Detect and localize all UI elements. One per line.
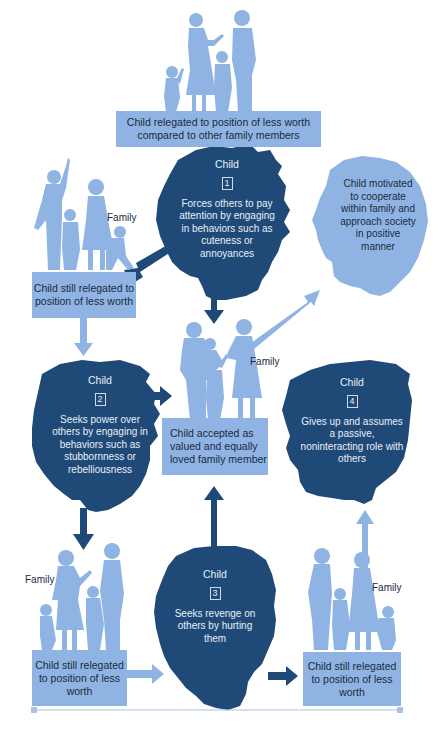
stage3-number-badge: 3 — [210, 587, 221, 600]
left-top-family-label: Family — [107, 212, 136, 223]
center-box: Child accepted as valued and equally lov… — [162, 418, 268, 475]
left-top-box: Child still relegated to position of les… — [32, 272, 136, 318]
arrow-stage2-to-left-bottom — [73, 508, 94, 550]
stage2-content: Child 2 Seeks power over others by engag… — [46, 374, 154, 476]
arrow-center-to-positive — [244, 290, 320, 354]
arrow-stage3-to-right-bottom — [268, 666, 298, 686]
top-family-silhouette — [164, 10, 256, 112]
stage3-content: Child 3 Seeks revenge on others by hurti… — [170, 568, 260, 645]
right-bottom-box: Child still relegated to position of les… — [303, 652, 401, 706]
top-box-text: Child relegated to position of less wort… — [116, 116, 321, 142]
center-family-label: Family — [250, 356, 279, 367]
center-family-silhouette — [180, 319, 262, 420]
stage4-title: Child — [300, 376, 404, 389]
arrow-left-family-to-stage2 — [74, 318, 93, 356]
stage4-content: Child 4 Gives up and assumes a passive, … — [300, 376, 404, 466]
stage2-number-badge: 2 — [95, 393, 106, 406]
stage1-title: Child — [178, 158, 276, 171]
left-bottom-family-silhouette — [40, 543, 124, 650]
stage1-text: Forces others to pay attention by engagi… — [178, 198, 276, 261]
top-box: Child relegated to position of less wort… — [116, 111, 321, 147]
stage4-text: Gives up and assumes a passive, noninter… — [300, 416, 404, 466]
arrow-stage1-to-center — [204, 296, 224, 324]
stage2-title: Child — [46, 374, 154, 387]
positive-head-text: Child motivated to cooperate within fami… — [340, 178, 416, 252]
left-bottom-box: Child still relegated to position of les… — [32, 650, 127, 706]
left-top-box-text: Child still relegated to position of les… — [32, 282, 136, 308]
stage3-text: Seeks revenge on others by hurting them — [170, 608, 260, 646]
arrow-left-bottom-to-stage3 — [127, 664, 164, 684]
stage3-title: Child — [170, 568, 260, 581]
right-bottom-family-silhouette — [308, 548, 396, 650]
right-bottom-family-label: Family — [372, 582, 401, 593]
rule-endcap-left — [31, 707, 37, 713]
right-bottom-box-text: Child still relegated to position of les… — [303, 660, 401, 699]
center-box-text: Child accepted as valued and equally lov… — [170, 427, 268, 466]
stage1-content: Child 1 Forces others to pay attention b… — [178, 158, 276, 260]
left-bottom-box-text: Child still relegated to position of les… — [32, 659, 127, 698]
stage2-text: Seeks power over others by engaging in b… — [46, 414, 154, 477]
stage4-number-badge: 4 — [347, 395, 358, 408]
positive-head-content: Child motivated to cooperate within fami… — [338, 178, 418, 253]
rule-endcap-right — [397, 707, 403, 713]
left-bottom-family-label: Family — [25, 574, 54, 585]
stage1-number-badge: 1 — [222, 177, 233, 190]
